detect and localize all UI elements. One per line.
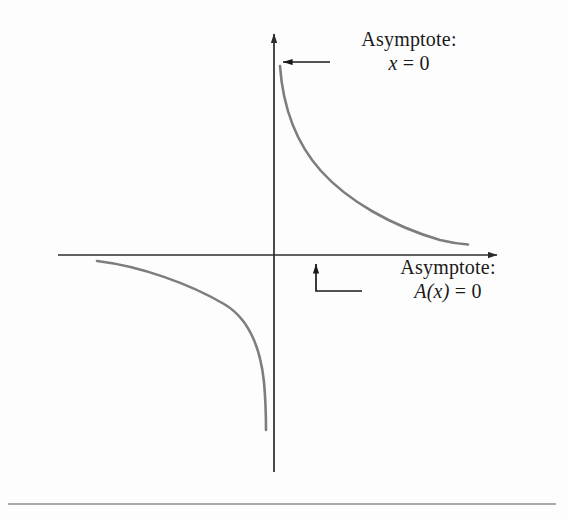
horizontal-asymptote-annotation: Asymptote: A(x) = 0 — [358, 256, 538, 303]
horizontal-asymptote-equation-rhs: 0 — [471, 280, 481, 302]
vertical-asymptote-equation-rel: = — [403, 52, 414, 74]
curve-branch-quadrant-three — [97, 261, 266, 430]
horizontal-asymptote-equation-lhs: A(x) — [414, 280, 449, 302]
vertical-asymptote-equation: x = 0 — [329, 52, 489, 76]
vertical-asymptote-title: Asymptote: — [329, 28, 489, 52]
horizontal-asymptote-equation-rel: = — [455, 280, 466, 302]
horizontal-asymptote-leader-line — [316, 264, 362, 291]
horizontal-asymptote-equation: A(x) = 0 — [358, 280, 538, 304]
asymptote-figure: Asymptote: x = 0 Asymptote: A(x) = 0 — [0, 0, 568, 519]
vertical-asymptote-annotation: Asymptote: x = 0 — [329, 28, 489, 75]
vertical-asymptote-equation-rhs: 0 — [419, 52, 429, 74]
curve-branch-quadrant-one — [280, 66, 468, 245]
horizontal-asymptote-title: Asymptote: — [358, 256, 538, 280]
